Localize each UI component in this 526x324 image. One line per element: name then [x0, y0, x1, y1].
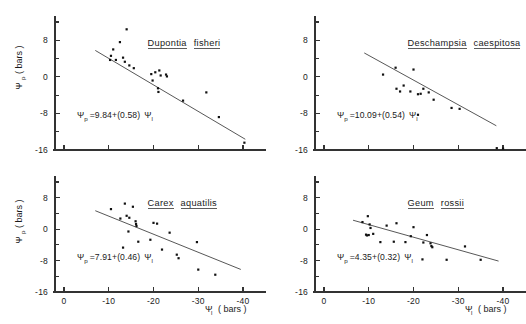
regression-equation: Ψp = 10.09 + (0.54)Ψl — [337, 110, 418, 122]
data-point — [149, 239, 151, 241]
data-point — [480, 259, 482, 261]
equation-psi-l-subscript: l — [411, 257, 412, 264]
data-point — [112, 48, 114, 50]
data-point — [243, 142, 245, 144]
species-name-part: rossii — [441, 198, 464, 208]
data-point — [403, 84, 405, 86]
data-point — [132, 206, 134, 208]
equation-slope: (0.46) — [117, 252, 140, 262]
equation-intercept: 9.84 — [95, 110, 112, 120]
data-point — [429, 242, 431, 244]
y-axis-title-psi: Ψ — [14, 236, 24, 244]
data-point — [169, 232, 171, 234]
y-tick-label: -16 — [35, 145, 48, 155]
y-tick-label: 0 — [43, 224, 48, 234]
data-point — [393, 241, 395, 243]
y-axis-title: Ψp( bars ) — [14, 199, 26, 243]
y-tick-label: -16 — [295, 145, 308, 155]
y-tick-label: 8 — [303, 35, 308, 45]
y-tick-label: -8 — [300, 108, 308, 118]
species-name-part: fisheri — [194, 38, 221, 48]
data-point — [160, 74, 162, 76]
equation-psi-p-subscript: p — [84, 257, 88, 264]
x-axis-title: Ψl( bars ) — [465, 304, 507, 316]
data-point — [417, 93, 419, 95]
y-axis-title-unit: ( bars ) — [14, 199, 24, 228]
x-tick-label: 0 — [61, 296, 66, 306]
data-point — [128, 217, 130, 219]
data-point — [157, 91, 159, 93]
x-tick-label: -10 — [362, 296, 375, 306]
data-point — [428, 91, 430, 93]
x-axis-title-subscript: l — [471, 309, 472, 316]
equation-intercept: 7.91 — [95, 252, 112, 262]
y-tick-label: -16 — [35, 287, 48, 297]
data-point — [110, 55, 112, 57]
y-tick-label: -8 — [300, 256, 308, 266]
data-point — [218, 116, 220, 118]
data-point — [421, 258, 423, 260]
data-point — [412, 226, 414, 228]
data-point — [214, 274, 216, 276]
data-point — [369, 227, 371, 229]
panel-bottom-right: 0-10-20-30-4080-8-16GeumrossiiΨp = 4.35 … — [295, 176, 526, 306]
x-tick-label: -20 — [407, 296, 420, 306]
species-name-part: Deschampsia — [408, 38, 468, 48]
x-axis-title-unit: ( bars ) — [218, 304, 247, 314]
data-point — [205, 91, 207, 93]
data-point — [386, 225, 388, 227]
species-name-part: caespitosa — [474, 38, 522, 48]
figure-canvas: 80-8-16DupontiafisheriΨp = 9.84 + (0.58)… — [0, 0, 526, 324]
data-point — [422, 241, 424, 243]
data-point — [133, 67, 135, 69]
equation-psi-l: Ψ — [144, 110, 151, 120]
data-point — [122, 247, 124, 249]
data-point — [196, 241, 198, 243]
y-axis-title-unit: ( bars ) — [14, 45, 24, 74]
species-name-part: Dupontia — [148, 38, 188, 48]
equation-intercept: 4.35 — [355, 252, 372, 262]
y-tick-label: 0 — [43, 72, 48, 82]
species-name-part: Carex — [148, 198, 174, 208]
equation-slope: (0.54) — [382, 110, 405, 120]
data-point — [446, 259, 448, 261]
panel-top-right: 80-8-16DeschampsiacaespitosaΨp = 10.09 +… — [295, 16, 526, 155]
data-point — [126, 215, 128, 217]
data-point — [395, 88, 397, 90]
data-point — [154, 71, 156, 73]
data-point — [122, 57, 124, 59]
data-point — [464, 245, 466, 247]
data-point — [426, 234, 428, 236]
data-point — [459, 108, 461, 110]
species-name-part: Geum — [408, 198, 434, 208]
species-name-part: aquatilis — [181, 198, 218, 208]
data-point — [409, 90, 411, 92]
regression-equation: Ψp = 4.35 + (0.32)Ψl — [337, 252, 413, 264]
x-tick-label: -20 — [147, 296, 160, 306]
panel-top-left: 80-8-16DupontiafisheriΨp = 9.84 + (0.58)… — [35, 16, 266, 155]
data-point — [420, 93, 422, 95]
x-tick-label: -30 — [452, 296, 465, 306]
equation-psi-l-subscript: l — [416, 115, 417, 122]
data-point — [394, 67, 396, 69]
equation-psi-l-subscript: l — [151, 257, 152, 264]
x-axis-title: Ψl( bars ) — [205, 304, 247, 316]
data-point — [128, 64, 130, 66]
y-tick-label: -8 — [40, 108, 48, 118]
equation-intercept: 10.09 — [355, 110, 377, 120]
data-point — [119, 217, 121, 219]
data-point — [124, 61, 126, 63]
y-tick-label: 8 — [43, 193, 48, 203]
data-point — [502, 148, 504, 150]
x-tick-label: -30 — [192, 296, 205, 306]
data-point — [110, 208, 112, 210]
data-point — [127, 230, 129, 232]
data-point — [197, 269, 199, 271]
data-point — [137, 241, 139, 243]
data-point — [361, 221, 363, 223]
y-axis-title-subscript: p — [19, 230, 26, 234]
x-axis-title-unit: ( bars ) — [478, 304, 507, 314]
data-point — [450, 107, 452, 109]
regression-line — [95, 50, 245, 139]
x-tick-label: -10 — [102, 296, 115, 306]
